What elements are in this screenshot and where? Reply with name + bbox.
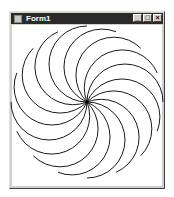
spiral-arc (35, 32, 87, 105)
spiral-arc (76, 37, 141, 102)
spiral-arc (33, 102, 98, 167)
spiral-arc (87, 99, 139, 172)
spiral-arc (17, 102, 90, 154)
spiral-arc (11, 102, 87, 140)
spiral-arc (87, 102, 125, 178)
spiral-drawing (0, 0, 174, 197)
spiral-arc (87, 64, 163, 102)
spiral-arc (87, 91, 152, 156)
spiral-arc (84, 50, 157, 102)
spiral-arc (22, 48, 87, 113)
spiral-arc (49, 26, 87, 102)
